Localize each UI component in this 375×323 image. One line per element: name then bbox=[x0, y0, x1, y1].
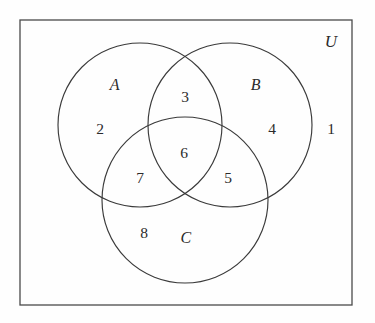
set-label-b: B bbox=[251, 77, 261, 93]
region-number-a-and-c: 7 bbox=[136, 170, 144, 186]
region-number-b-and-c: 5 bbox=[224, 170, 232, 186]
region-number-a-b-and-c: 6 bbox=[180, 145, 188, 161]
venn-diagram-canvas bbox=[0, 0, 375, 323]
region-number-only-c: 8 bbox=[140, 225, 148, 241]
region-number-only-b: 4 bbox=[268, 121, 276, 137]
region-number-outside-all: 1 bbox=[327, 121, 335, 137]
venn-diagram: U A B C 1 2 3 4 5 6 7 8 bbox=[0, 0, 375, 323]
region-number-only-a: 2 bbox=[96, 121, 104, 137]
universe-label: U bbox=[325, 33, 337, 50]
circle-c bbox=[102, 117, 268, 283]
set-label-c: C bbox=[180, 230, 191, 246]
region-number-a-and-b: 3 bbox=[181, 89, 189, 105]
universe-rectangle bbox=[20, 20, 352, 305]
set-label-a: A bbox=[110, 77, 120, 93]
